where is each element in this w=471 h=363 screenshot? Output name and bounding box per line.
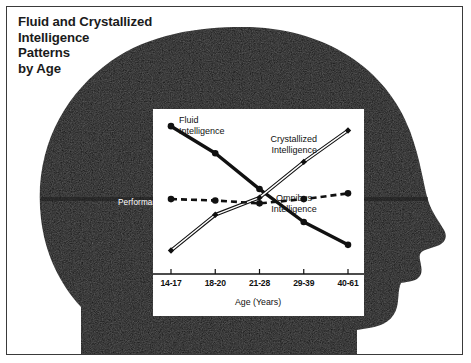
series-label-fluid: FluidIntelligence [179,115,225,137]
x-tick-label: 29-39 [293,278,314,288]
x-tick-label: 21-28 [249,278,270,288]
figure-root: Fluid and Crystallized Intelligence Patt… [0,0,471,363]
page-title: Fluid and Crystallized Intelligence Patt… [18,14,233,76]
title-line-4: by Age [18,61,233,77]
figure-frame: Fluid and Crystallized Intelligence Patt… [6,6,463,355]
x-tick-label: 40-61 [338,278,359,288]
plot-inner: FluidIntelligence CrystallizedIntelligen… [153,109,364,316]
x-tick-label: 18-20 [205,278,226,288]
x-tick-label: 14-17 [161,278,182,288]
series-label-crystallized: CrystallizedIntelligence [270,134,317,156]
plot-area: FluidIntelligence CrystallizedIntelligen… [153,109,364,316]
title-line-3: Patterns [18,45,233,61]
title-line-1: Fluid and Crystallized [18,14,233,30]
series-label-omnibus: OmnibusIntelligence [271,193,317,215]
x-axis-label: Age (Years) [235,297,281,307]
title-line-2: Intelligence [18,30,233,46]
